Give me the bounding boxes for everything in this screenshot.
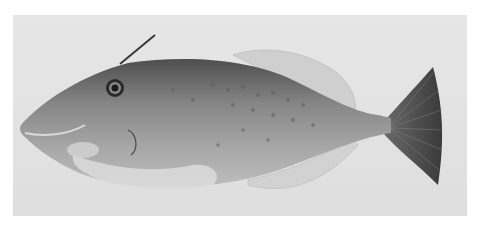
dorsal-spine [120,35,155,64]
fish-photo [13,15,467,216]
fish-illustration [13,15,467,216]
caudal-fin [383,67,442,185]
